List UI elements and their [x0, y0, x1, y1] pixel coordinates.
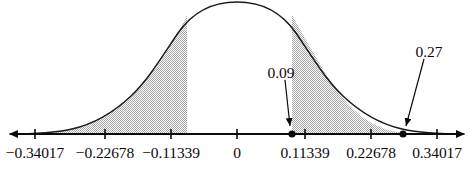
normal-curve-line — [10, 2, 464, 134]
axis-tick-label-011339: 0.11339 — [280, 145, 329, 161]
axis-tick-label-neg-011339: −0.11339 — [142, 145, 200, 161]
callout-arrow-0-09 — [285, 80, 290, 126]
axis-tick-label-034017: 0.34017 — [412, 145, 462, 161]
axis-tick-label-neg-022678: −0.22678 — [76, 145, 134, 161]
axis-tick-label-neg-034017: −0.34017 — [6, 145, 64, 161]
left-shaded-region — [8, 13, 188, 134]
callout-arrow-0-27 — [406, 59, 424, 126]
annotation-label-0-27: 0.27 — [415, 44, 442, 60]
bottom-cropped-text — [0, 166, 473, 175]
axis-tick-label-022678: 0.22678 — [346, 145, 396, 161]
normal-distribution-curve-figure: −0.34017 −0.22678 −0.11339 0 0.11339 0.2… — [0, 0, 473, 175]
data-point-0-27 — [399, 130, 406, 137]
axis-tick-label-zero: 0 — [233, 145, 241, 161]
data-point-0-09 — [288, 130, 295, 137]
right-shaded-region — [292, 15, 466, 134]
annotation-label-0-09: 0.09 — [267, 65, 294, 81]
